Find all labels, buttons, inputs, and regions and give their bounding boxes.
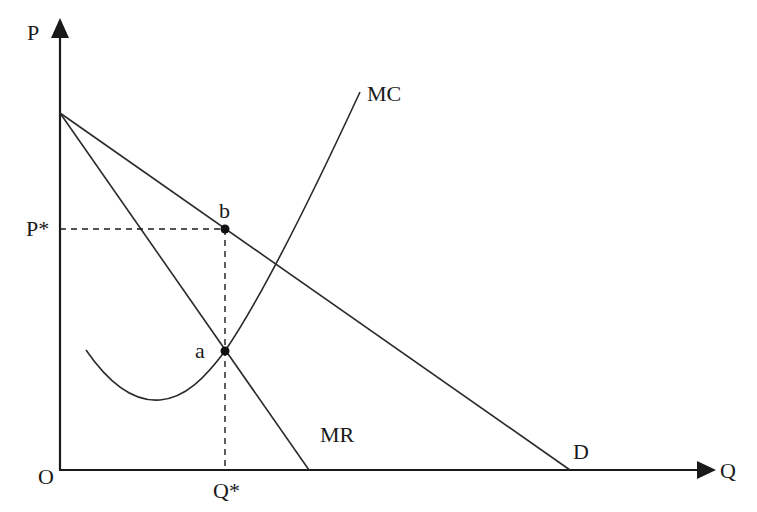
- demand-curve: [60, 113, 570, 470]
- price-star-label: P*: [26, 216, 49, 241]
- x-axis-arrow-icon: [697, 461, 716, 479]
- marginal-revenue-label: MR: [320, 422, 355, 447]
- point-a: [221, 347, 230, 356]
- point-b: [221, 225, 230, 234]
- x-axis-label: Q: [720, 458, 736, 483]
- point-a-label: a: [195, 338, 205, 363]
- marginal-cost-label: MC: [367, 81, 401, 106]
- monopoly-diagram: P Q O P* Q* D MR MC b a: [0, 0, 757, 512]
- y-axis-arrow-icon: [51, 18, 69, 38]
- quantity-star-label: Q*: [213, 478, 240, 503]
- marginal-revenue-curve: [60, 113, 309, 470]
- y-axis-label: P: [27, 20, 39, 45]
- demand-label: D: [573, 439, 589, 464]
- point-b-label: b: [219, 198, 230, 223]
- origin-label: O: [38, 464, 54, 489]
